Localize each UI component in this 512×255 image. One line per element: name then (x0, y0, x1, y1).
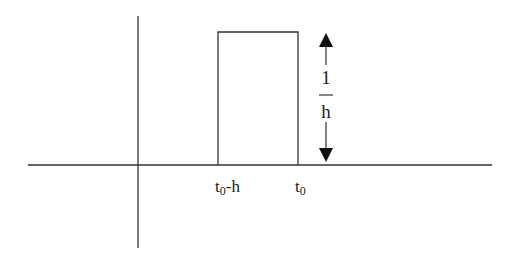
pulse-rectangle (218, 32, 298, 165)
label-t0: t0 (295, 177, 306, 198)
arrow-down-icon (319, 148, 333, 162)
pulse-diagram: 1 h t0-h t0 (0, 0, 512, 255)
label-t0-minus-h: t0-h (215, 177, 240, 198)
arrow-up-icon (319, 33, 333, 47)
height-annotation: 1 h (319, 33, 333, 162)
fraction-denominator: h (321, 101, 331, 122)
label-t0-subscript: 0 (300, 184, 306, 198)
fraction-numerator: 1 (321, 67, 331, 88)
label-t0-minus-h-suffix: -h (226, 177, 241, 196)
